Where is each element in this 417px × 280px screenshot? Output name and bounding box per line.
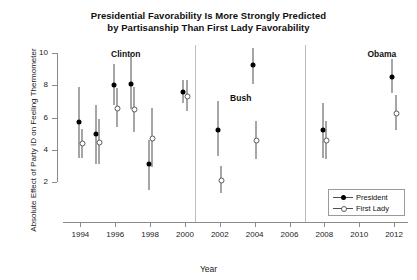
y-axis-tick	[52, 118, 57, 119]
first-lady-data-point	[114, 105, 120, 111]
chart-title: Presidential Favorability Is More Strong…	[0, 10, 417, 33]
chart-title-line-1: Presidential Favorability Is More Strong…	[0, 10, 417, 22]
x-axis-tick	[220, 222, 221, 227]
x-axis-tick	[290, 222, 291, 227]
first-lady-data-point	[219, 177, 225, 183]
first-lady-marker-icon	[333, 204, 353, 213]
x-axis-tick	[255, 222, 256, 227]
president-marker-icon	[333, 193, 353, 202]
era-label-clinton: Clinton	[111, 49, 140, 59]
era-label-bush: Bush	[230, 93, 251, 103]
president-data-point	[76, 120, 81, 125]
legend-item-president: President	[333, 192, 401, 203]
x-axis-tick	[359, 222, 360, 227]
first-lady-data-point	[254, 138, 260, 144]
president-data-point	[216, 128, 221, 133]
first-lady-data-point	[80, 141, 86, 147]
first-lady-data-point	[97, 139, 103, 145]
first-lady-data-point	[149, 135, 155, 141]
first-lady-data-point	[323, 138, 329, 144]
y-axis-tick-label: 2	[18, 177, 48, 186]
president-data-point	[390, 75, 395, 80]
x-axis-tick	[150, 222, 151, 227]
first-lady-data-point	[132, 107, 138, 113]
y-axis-tick-label: 8	[18, 80, 48, 89]
first-lady-data-point	[393, 110, 399, 116]
legend-label-president: President	[356, 193, 388, 202]
legend-item-first-lady: First Lady	[333, 203, 401, 214]
x-axis-tick	[394, 222, 395, 227]
y-axis-tick-label: 10	[18, 48, 48, 57]
y-axis-tick	[52, 85, 57, 86]
legend-label-first-lady: First Lady	[356, 204, 389, 213]
chart-title-line-2: by Partisanship Than First Lady Favorabi…	[0, 22, 417, 34]
president-data-point	[251, 63, 256, 68]
y-axis-tick	[52, 150, 57, 151]
x-axis-tick	[324, 222, 325, 227]
president-data-point	[129, 81, 134, 86]
x-axis-title: Year	[0, 264, 417, 274]
y-axis-tick-label: 4	[18, 145, 48, 154]
y-axis-tick	[52, 182, 57, 183]
x-axis-tick	[80, 222, 81, 227]
era-divider	[305, 45, 306, 222]
y-axis-tick-label: 6	[18, 113, 48, 122]
first-lady-data-point	[184, 93, 190, 99]
x-axis-tick-label: 2012	[374, 230, 414, 239]
y-axis-tick	[52, 53, 57, 54]
x-axis-tick	[115, 222, 116, 227]
era-divider	[195, 45, 196, 222]
y-axis-title: Absolute Effect of Party ID on Feeling T…	[29, 45, 38, 235]
x-axis-tick	[185, 222, 186, 227]
president-data-point	[111, 83, 116, 88]
chart-figure: Presidential Favorability Is More Strong…	[0, 0, 417, 280]
era-label-obama: Obama	[367, 49, 396, 59]
chart-legend: President First Lady	[328, 189, 405, 216]
